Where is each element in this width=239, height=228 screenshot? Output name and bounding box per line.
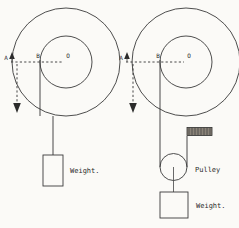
right-pulley-label: Pulley (195, 166, 220, 174)
diagram-svg: B O A Weight. (0, 0, 239, 228)
right-weight-box (160, 192, 188, 218)
right-arrow-up-icon (124, 52, 130, 62)
right-point-label-a: A (119, 54, 123, 61)
figure-canvas: B O A Weight. (0, 0, 239, 228)
right-anchor-block (187, 128, 212, 136)
left-weight-label: Weight. (70, 167, 100, 175)
left-point-label-o: O (66, 52, 70, 59)
left-weight-box (43, 155, 63, 186)
right-diagram: B O A Pulley Weight. (119, 8, 239, 218)
right-point-label-b: B (156, 52, 160, 59)
left-diagram: B O A Weight. (4, 8, 120, 186)
left-outer-wheel (12, 8, 120, 116)
left-arrow-down-icon (13, 103, 21, 113)
left-point-label-a: A (4, 54, 8, 61)
right-arrow-down-icon (129, 103, 137, 113)
left-arrow-up-icon (9, 52, 15, 62)
right-point-label-o: O (187, 52, 191, 59)
right-weight-label: Weight. (196, 202, 226, 210)
left-point-label-b: B (36, 52, 40, 59)
